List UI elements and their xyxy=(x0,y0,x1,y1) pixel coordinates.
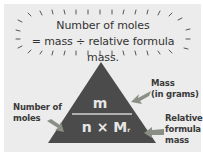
mass-label-line-1: Mass xyxy=(151,78,199,89)
relative-mass-subscript: r xyxy=(127,126,130,133)
formula-line-1: Number of moles xyxy=(14,18,192,34)
mass-label: Mass (in grams) xyxy=(151,78,199,100)
number-of-moles-label: Number of moles xyxy=(13,102,62,124)
rfm-label-line-1: Relative xyxy=(165,113,203,124)
rfm-label-line-2: formula xyxy=(165,124,203,135)
rfm-label-line-3: mass xyxy=(165,135,203,146)
triangle-mass-symbol: m xyxy=(88,95,112,111)
times-symbol: × xyxy=(97,119,109,135)
moles-label-line-2: moles xyxy=(13,113,62,124)
moles-label-line-1: Number of xyxy=(13,102,62,113)
triangle-bottom-expression: n × Mr xyxy=(76,119,136,135)
moles-symbol: n xyxy=(82,119,92,135)
formula-speech-bubble: Number of moles = mass ÷ relative formul… xyxy=(14,6,192,58)
mass-arrow-icon xyxy=(129,88,153,106)
formula-text: Number of moles = mass ÷ relative formul… xyxy=(14,18,192,66)
relative-formula-mass-label: Relative formula mass xyxy=(165,113,203,146)
relative-formula-mass-arrow-icon xyxy=(143,125,165,139)
mass-label-line-2: (in grams) xyxy=(151,89,199,100)
relative-mass-symbol: M xyxy=(113,119,127,135)
